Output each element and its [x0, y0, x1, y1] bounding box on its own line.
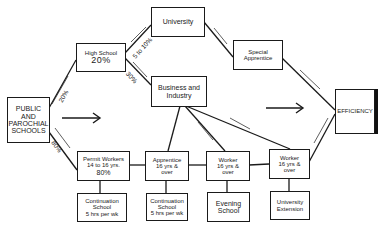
node-permit-workers: Permit Workers 14 to 16 yrs. 80% [77, 151, 130, 181]
node-evening-school: Evening School [207, 192, 250, 222]
node-special-apprentice: Special Apprentice [233, 40, 283, 70]
node-university-extension: University Extension [270, 191, 310, 220]
node-continuation-school-2: Continuation School 5 hrs per wk [146, 193, 188, 221]
node-public-parochial-schools: PUBLIC AND PAROCHIAL SCHOOLS [7, 97, 50, 143]
node-university: University [151, 7, 205, 37]
node-continuation-school-1: Continuation School 5 hrs per wk [77, 193, 127, 222]
node-business-industry: Business and Industry [151, 76, 207, 107]
node-apprentice: Apprentice 16 yrs & over [145, 151, 189, 181]
node-worker-2: Worker 16 yrs & over [269, 149, 310, 179]
node-efficiency: EFFICIENCY [335, 89, 375, 134]
node-worker-1: Worker 16 yrs & over [206, 151, 250, 181]
node-high-school: High School 20% [76, 43, 126, 72]
